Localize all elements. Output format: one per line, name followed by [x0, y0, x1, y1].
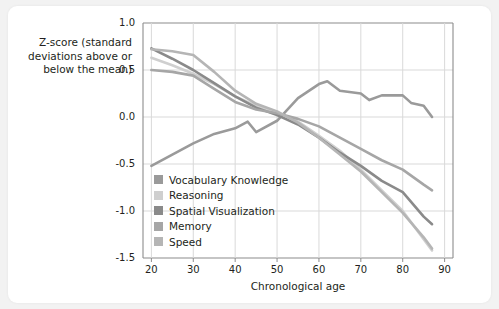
x-tick-label: 80 — [388, 264, 418, 275]
y-tick-label: 0.5 — [105, 64, 135, 75]
legend-item-label: Speed — [169, 236, 202, 248]
x-tick-label: 60 — [304, 264, 334, 275]
legend-item-label: Memory — [169, 220, 212, 232]
legend-item[interactable]: Vocabulary Knowledge — [154, 172, 288, 188]
legend-swatch-icon — [154, 222, 163, 231]
y-tick-label: 0.0 — [105, 111, 135, 122]
legend-item[interactable]: Reasoning — [154, 188, 288, 204]
legend-item-label: Vocabulary Knowledge — [169, 174, 288, 186]
x-tick-label: 40 — [220, 264, 250, 275]
x-tick-label: 20 — [136, 264, 166, 275]
y-tick-label: -1.0 — [105, 205, 135, 216]
x-axis-title: Chronological age — [218, 280, 378, 292]
chart-card: Z-score (standard deviations above or be… — [8, 6, 491, 303]
chart-figure: Z-score (standard deviations above or be… — [8, 6, 491, 303]
y-tick-label: 1.0 — [105, 17, 135, 28]
x-tick-label: 50 — [262, 264, 292, 275]
legend-item[interactable]: Speed — [154, 234, 288, 250]
x-tick-label: 70 — [346, 264, 376, 275]
legend-item[interactable]: Spatial Visualization — [154, 203, 288, 219]
legend-swatch-icon — [154, 237, 163, 246]
legend-item-label: Spatial Visualization — [169, 205, 275, 217]
legend-item-label: Reasoning — [169, 189, 224, 201]
legend-item[interactable]: Memory — [154, 219, 288, 235]
chart-legend: Vocabulary KnowledgeReasoningSpatial Vis… — [154, 172, 288, 250]
y-axis-title-line-1: Z-score (standard — [12, 36, 132, 50]
legend-swatch-icon — [154, 175, 163, 184]
y-axis-title-line-2: deviations above or — [12, 50, 132, 64]
y-tick-label: -1.5 — [105, 252, 135, 263]
x-tick-label: 90 — [430, 264, 460, 275]
legend-swatch-icon — [154, 191, 163, 200]
x-tick-label: 30 — [178, 264, 208, 275]
legend-swatch-icon — [154, 206, 163, 215]
y-tick-label: -0.5 — [105, 158, 135, 169]
